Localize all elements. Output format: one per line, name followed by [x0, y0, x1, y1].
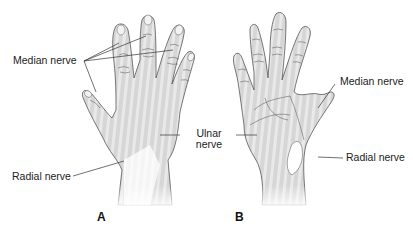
- hand-b-outline: [233, 12, 334, 205]
- hand-b-palmar: [233, 12, 334, 210]
- label-a-radial-nerve: Radial nerve: [12, 171, 71, 182]
- hand-nerve-diagram: [0, 0, 413, 234]
- label-ulnar-line2: nerve: [183, 139, 235, 150]
- label-b-radial-nerve: Radial nerve: [346, 152, 405, 163]
- label-ulnar-nerve: Ulnar nerve: [183, 128, 235, 150]
- panel-label-a: A: [97, 210, 106, 224]
- label-b-median-nerve: Median nerve: [340, 76, 404, 87]
- panel-label-b: B: [235, 210, 244, 224]
- hand-a-dorsal: [82, 15, 195, 210]
- label-a-median-nerve: Median nerve: [13, 55, 77, 66]
